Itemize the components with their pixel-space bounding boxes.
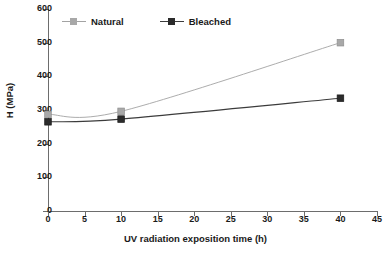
x-tick-label: 40	[325, 215, 355, 224]
x-tick-label: 15	[143, 215, 173, 224]
x-tick-label: 0	[33, 215, 63, 224]
legend-label: Bleached	[189, 17, 231, 27]
legend-line-swatch	[160, 21, 184, 22]
y-tick-label: 500	[37, 38, 52, 47]
x-tick-label: 10	[106, 215, 136, 224]
chart-figure: 0100200300400500600 051015202530354045 H…	[0, 0, 391, 256]
y-tick-label: 200	[37, 139, 52, 148]
y-tick-label: 300	[37, 105, 52, 114]
x-tick-label: 25	[216, 215, 246, 224]
legend-item-natural: Natural	[62, 17, 124, 27]
x-tick-label: 35	[289, 215, 319, 224]
x-tick-label: 20	[179, 215, 209, 224]
x-axis-title: UV radiation exposition time (h)	[0, 233, 391, 244]
legend-item-bleached: Bleached	[160, 17, 231, 27]
x-tick-label: 5	[70, 215, 100, 224]
x-axis-line	[48, 211, 378, 212]
legend-square-marker-icon	[168, 18, 175, 25]
plot-area	[48, 9, 377, 211]
y-axis-title: H (MPa)	[4, 46, 15, 156]
legend-line-swatch	[62, 21, 86, 22]
x-tick-label: 30	[252, 215, 282, 224]
y-tick-label: 400	[37, 71, 52, 80]
y-tick-label: 100	[37, 172, 52, 181]
x-tick-label: 45	[362, 215, 391, 224]
legend-label: Natural	[91, 17, 124, 27]
y-tick-label: 600	[37, 4, 52, 13]
chart-legend: NaturalBleached	[62, 17, 231, 27]
legend-square-marker-icon	[70, 18, 77, 25]
